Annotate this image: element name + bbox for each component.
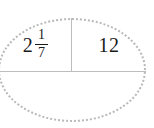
integer-value: 12	[99, 35, 120, 55]
cell-left: 2 1 7	[0, 18, 71, 71]
cell-right: 12	[72, 18, 146, 71]
mixed-number-whole-part: 2	[23, 35, 34, 55]
horizontal-divider-line	[0, 71, 146, 72]
fraction-numerator: 1	[36, 28, 48, 43]
mixed-number-value: 2 1 7	[23, 28, 49, 60]
fraction-denominator: 7	[36, 46, 48, 61]
fraction: 1 7	[35, 28, 48, 60]
figure-canvas: 2 1 7 12	[0, 0, 154, 128]
